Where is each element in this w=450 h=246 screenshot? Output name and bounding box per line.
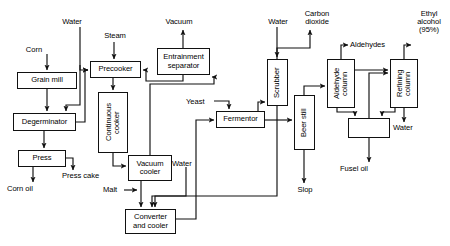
path-scrubber-to-carbon-dioxide — [277, 30, 310, 59]
stream-label-corn-oil: Corn oil — [7, 185, 51, 193]
stream-label-corn: Corn — [18, 46, 50, 54]
unit-label-refining-column: Refiningcolumn — [396, 70, 412, 97]
path-degerminator-to-precooker — [76, 70, 88, 122]
unit-converter-and-cooler[interactable]: Converterand cooler — [125, 209, 176, 234]
path-press-to-press-cake — [66, 158, 73, 170]
unit-label-vacuum-cooler: Vacuumcooler — [137, 160, 164, 176]
stream-label-ethyl-alcohol: Ethylalcohol(95%) — [409, 10, 449, 34]
path-yeast-to-fermentor — [214, 101, 229, 109]
unit-precooker[interactable]: Precooker — [90, 61, 141, 78]
stream-label-yeast: Yeast — [186, 98, 216, 106]
path-aldehyde-to-aldehydes — [341, 45, 348, 59]
unit-label-scrubber: Scrubber — [273, 67, 281, 97]
unit-fermentor[interactable]: Fermentor — [216, 111, 265, 128]
unit-continuous-cooker[interactable]: Continuouscooker — [98, 92, 128, 153]
stream-label-water-top-left: Water — [54, 18, 90, 26]
unit-label-entrainment-separator: Entrainmentseparator — [163, 53, 203, 69]
unit-label-degerminator: Degerminator — [22, 118, 67, 126]
stream-label-vacuum: Vacuum — [156, 18, 202, 26]
unit-label-fermentor: Fermentor — [223, 115, 258, 123]
unit-aldehyde-column[interactable]: Aldehydecolumn — [327, 59, 355, 108]
path-water-to-precooker — [80, 65, 88, 70]
unit-entrainment-separator[interactable]: Entrainmentseparator — [157, 48, 210, 75]
unit-label-press: Press — [32, 154, 51, 162]
stream-label-steam: Steam — [96, 32, 134, 40]
stream-label-slop: Slop — [293, 186, 317, 194]
path-refining-to-ethyl-alcohol — [404, 45, 411, 59]
stream-label-aldehydes: Aldehydes — [350, 41, 402, 49]
unit-press[interactable]: Press — [18, 150, 66, 167]
path-refining-to-decanter — [382, 108, 395, 116]
path-beer-still-to-aldehyde-column — [304, 86, 325, 95]
stream-label-malt: Malt — [103, 186, 129, 194]
path-converter-to-fermentor — [176, 120, 214, 219]
unit-refining-column[interactable]: Refiningcolumn — [390, 59, 418, 108]
unit-label-beer-still: Beer still — [300, 108, 308, 137]
unit-decanter[interactable] — [348, 118, 390, 138]
path-vacuum-cooler-to-separator-right — [150, 77, 214, 155]
stream-label-water-mid: Water — [172, 160, 206, 168]
stream-label-water-refining: Water — [393, 124, 427, 132]
path-aldehyde-to-decanter — [337, 108, 355, 116]
unit-grain-mill[interactable]: Grain mill — [17, 72, 77, 89]
unit-beer-still[interactable]: Beer still — [294, 95, 315, 150]
path-fermentor-to-scrubber — [258, 102, 265, 111]
path-water-to-degerminator — [66, 27, 80, 111]
unit-degerminator[interactable]: Degerminator — [13, 113, 76, 131]
stream-label-carbon-dioxide: Carbondioxide — [296, 10, 338, 26]
unit-vacuum-cooler[interactable]: Vacuumcooler — [128, 155, 172, 181]
path-decanter-to-refining-column — [369, 73, 388, 118]
unit-label-precooker: Precooker — [98, 65, 132, 73]
process-flow-diagram: Grain millDegerminatorPressPrecookerCont… — [0, 0, 450, 246]
unit-scrubber[interactable]: Scrubber — [267, 59, 288, 106]
stream-label-fusel-oil: Fusel oil — [340, 165, 382, 173]
stream-label-water-scrubber: Water — [261, 18, 295, 26]
path-cooker-to-vacuum-cooler — [113, 153, 126, 166]
stream-label-press-cake: Press cake — [62, 172, 116, 180]
unit-label-continuous-cooker: Continuouscooker — [105, 104, 121, 142]
unit-label-aldehyde-column: Aldehydecolumn — [333, 68, 349, 99]
unit-label-converter-and-cooler: Converterand cooler — [133, 213, 168, 229]
unit-label-grain-mill: Grain mill — [31, 76, 63, 84]
